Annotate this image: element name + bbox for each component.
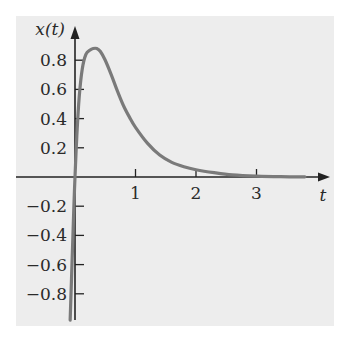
y-tick-label: −0.6: [26, 255, 67, 275]
y-tick-label: 0.4: [40, 109, 67, 129]
y-tick-label: −0.2: [26, 196, 67, 216]
y-tick-label: −0.8: [26, 284, 67, 304]
x-axis-arrow-icon: [318, 173, 330, 182]
x-axis-label: t: [320, 185, 327, 205]
y-tick-label: 0.2: [40, 138, 67, 158]
x-tick-label: 3: [251, 183, 262, 203]
y-tick-label: 0.6: [40, 79, 67, 99]
y-tick-label: −0.4: [26, 225, 67, 245]
curve: [70, 48, 305, 320]
x-tick-label: 2: [191, 183, 202, 203]
y-axis-label: x(t): [35, 19, 65, 39]
x-tick-label: 1: [130, 183, 141, 203]
chart-svg: 1230.80.60.40.2−0.2−0.4−0.6−0.8x(t)t: [0, 0, 354, 344]
y-axis-arrow-icon: [71, 26, 80, 39]
y-tick-label: 0.8: [40, 50, 67, 70]
series-line: [70, 48, 305, 320]
